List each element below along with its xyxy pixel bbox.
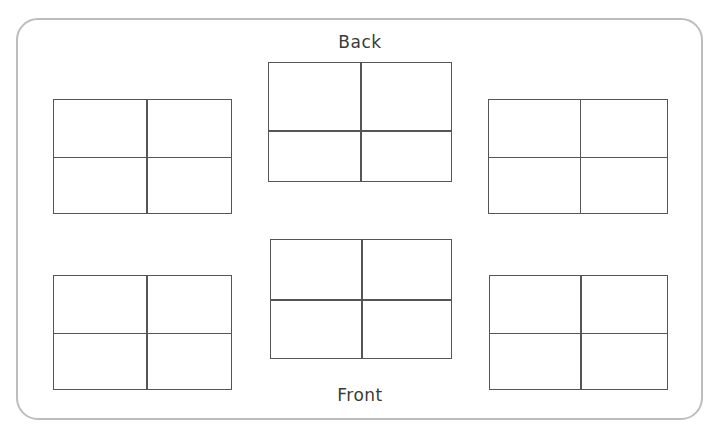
desk-group-front-right[interactable]	[489, 275, 668, 390]
desk-group-front-left[interactable]	[53, 275, 232, 390]
desk-group-back-left[interactable]	[53, 99, 232, 214]
desk-group-back-right[interactable]	[488, 99, 668, 214]
desk-divider-horizontal	[54, 157, 231, 159]
desk-divider-horizontal	[490, 333, 667, 335]
desk-divider-horizontal	[271, 299, 451, 301]
desk-divider-vertical	[360, 63, 362, 181]
desk-group-back-center[interactable]	[268, 62, 452, 182]
desk-divider-horizontal	[269, 130, 451, 132]
desk-divider-horizontal	[54, 333, 231, 335]
back-of-room-label: Back	[260, 32, 460, 52]
desk-group-front-center[interactable]	[270, 239, 452, 359]
seating-chart-canvas: Back Front	[0, 0, 720, 434]
front-of-room-label: Front	[260, 385, 460, 405]
desk-divider-horizontal	[489, 157, 667, 159]
